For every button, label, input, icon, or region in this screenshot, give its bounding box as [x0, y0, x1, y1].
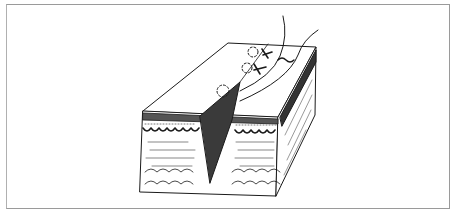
- skin-suture-illustration: [0, 0, 457, 217]
